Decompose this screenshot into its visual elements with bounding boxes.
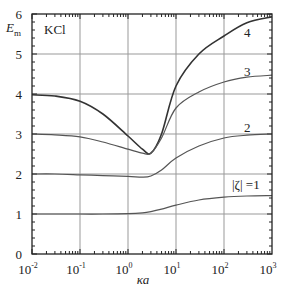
- x-tick-label: 10-1: [66, 261, 86, 277]
- x-tick-label: 100: [116, 261, 133, 277]
- x-tick-label: 10-2: [18, 261, 38, 277]
- y-tick-label: 3: [16, 127, 23, 142]
- chart: 0123456 10-210-1100101102103 Em κa KCl 4…: [0, 0, 281, 289]
- curve-label-4: 4: [244, 25, 251, 40]
- curve-label-3: 3: [244, 64, 251, 79]
- y-tick-labels: 0123456: [16, 7, 23, 262]
- curve-zeta-2: [32, 134, 272, 177]
- curve-zeta-4: [32, 17, 272, 154]
- grid-lines: [32, 14, 272, 254]
- electrolyte-label: KCl: [44, 22, 66, 37]
- x-axis-title: κa: [137, 272, 150, 287]
- curve-zeta-3: [32, 75, 272, 154]
- y-tick-label: 6: [16, 7, 23, 22]
- curve-label-zeta-1: |ζ| =1: [232, 177, 260, 192]
- y-axis-title: Em: [5, 20, 21, 38]
- y-tick-label: 4: [16, 87, 23, 102]
- x-tick-label: 101: [164, 261, 181, 277]
- x-tick-label: 103: [260, 261, 277, 277]
- curve-label-2: 2: [244, 120, 251, 135]
- y-tick-label: 5: [16, 47, 23, 62]
- x-tick-label: 102: [212, 261, 229, 277]
- y-tick-label: 0: [16, 247, 23, 262]
- y-axis-title-subscript: m: [14, 28, 21, 38]
- y-tick-label: 2: [16, 167, 23, 182]
- curve-zeta-1: [32, 196, 272, 214]
- y-tick-label: 1: [16, 207, 23, 222]
